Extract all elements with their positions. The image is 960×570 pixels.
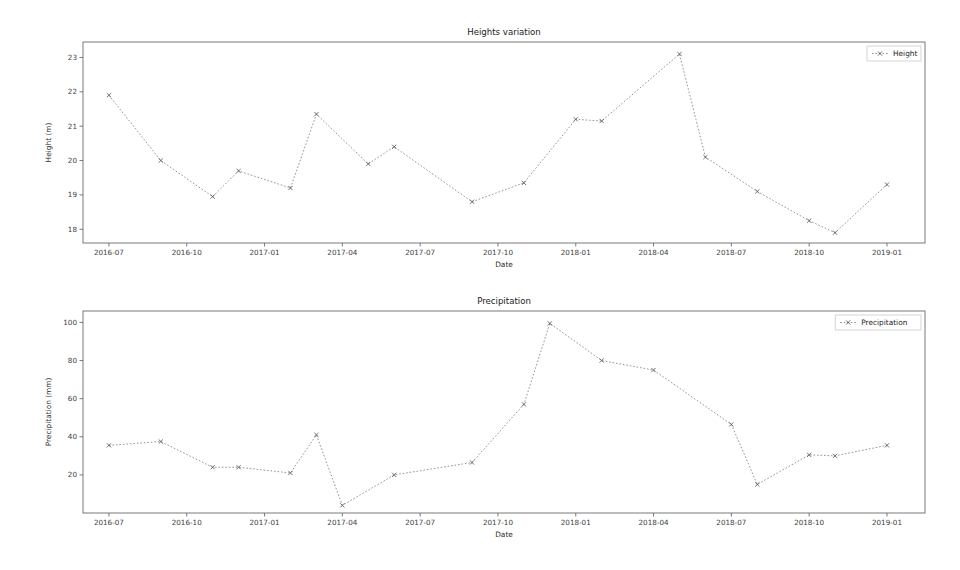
x-tick-label: 2017-04 xyxy=(327,248,357,257)
y-axis-title: Height (m) xyxy=(44,123,53,163)
x-tick-label: 2017-07 xyxy=(405,248,435,257)
x-tick-label: 2019-01 xyxy=(872,248,902,257)
data-point-marker xyxy=(237,169,241,173)
data-point-marker xyxy=(807,219,811,223)
x-tick-label: 2017-01 xyxy=(250,248,280,257)
data-point-marker xyxy=(729,422,733,426)
y-tick-label: 18 xyxy=(68,225,78,234)
data-point-marker xyxy=(107,93,111,97)
data-point-marker xyxy=(885,182,889,186)
data-point-marker xyxy=(470,200,474,204)
x-tick-label: 2016-10 xyxy=(172,518,202,527)
x-axis-title: Date xyxy=(495,530,513,539)
x-tick-label: 2017-04 xyxy=(327,518,357,527)
data-point-marker xyxy=(651,368,655,372)
data-point-marker xyxy=(314,433,318,437)
x-tick-label: 2017-01 xyxy=(250,518,280,527)
legend-label: Precipitation xyxy=(861,318,908,327)
x-tick-label: 2018-04 xyxy=(639,518,669,527)
data-point-marker xyxy=(288,186,292,190)
chart-panel-heights-variation: Heights variation1819202122232016-072016… xyxy=(0,0,960,285)
data-point-marker xyxy=(470,460,474,464)
data-point-marker xyxy=(211,465,215,469)
series-line-height xyxy=(109,54,887,233)
data-point-marker xyxy=(211,195,215,199)
legend-label: Height xyxy=(893,49,918,58)
x-tick-label: 2018-07 xyxy=(716,248,746,257)
data-point-marker xyxy=(159,158,163,162)
data-point-marker xyxy=(833,231,837,235)
data-point-marker xyxy=(392,473,396,477)
chart-panel-precipitation: Precipitation204060801002016-072016-1020… xyxy=(0,285,960,570)
chart-title: Precipitation xyxy=(477,296,531,306)
data-point-marker xyxy=(755,189,759,193)
heights-variation-chart: Heights variation1819202122232016-072016… xyxy=(0,0,960,285)
data-point-marker xyxy=(392,145,396,149)
x-tick-label: 2017-10 xyxy=(483,248,513,257)
x-tick-label: 2016-07 xyxy=(94,518,124,527)
series-markers xyxy=(107,321,889,507)
data-point-marker xyxy=(522,402,526,406)
data-point-marker xyxy=(833,454,837,458)
x-tick-label: 2018-10 xyxy=(794,518,824,527)
chart-legend[interactable]: Precipitation xyxy=(835,315,921,330)
data-point-marker xyxy=(755,482,759,486)
x-tick-label: 2017-10 xyxy=(483,518,513,527)
y-tick-label: 100 xyxy=(63,318,77,327)
data-point-marker xyxy=(522,181,526,185)
data-point-marker xyxy=(366,162,370,166)
y-tick-label: 80 xyxy=(68,356,78,365)
x-tick-label: 2016-10 xyxy=(172,248,202,257)
y-tick-label: 23 xyxy=(68,53,77,62)
y-tick-label: 20 xyxy=(68,156,78,165)
data-point-marker xyxy=(314,112,318,116)
y-tick-label: 19 xyxy=(68,190,78,199)
matplotlib-figure: Heights variation1819202122232016-072016… xyxy=(0,0,960,570)
data-point-marker xyxy=(340,503,344,507)
data-point-marker xyxy=(574,117,578,121)
data-point-marker xyxy=(548,321,552,325)
data-point-marker xyxy=(703,155,707,159)
precipitation-chart: Precipitation204060801002016-072016-1020… xyxy=(0,285,960,570)
x-tick-label: 2017-07 xyxy=(405,518,435,527)
x-tick-label: 2018-04 xyxy=(639,248,669,257)
y-tick-label: 21 xyxy=(68,122,77,131)
x-axis-title: Date xyxy=(495,260,513,269)
x-tick-label: 2018-01 xyxy=(561,518,591,527)
y-tick-label: 60 xyxy=(68,394,78,403)
chart-title: Heights variation xyxy=(467,27,541,37)
x-tick-label: 2016-07 xyxy=(94,248,124,257)
x-tick-label: 2018-01 xyxy=(561,248,591,257)
y-tick-label: 40 xyxy=(68,432,78,441)
series-line-precipitation xyxy=(109,323,887,505)
series-markers xyxy=(107,52,889,235)
plot-frame xyxy=(83,311,925,513)
y-tick-label: 22 xyxy=(68,87,77,96)
y-axis-title: Precipitation (mm) xyxy=(44,378,53,447)
plot-frame xyxy=(83,42,925,243)
x-tick-label: 2019-01 xyxy=(872,518,902,527)
y-tick-label: 20 xyxy=(68,470,78,479)
data-point-marker xyxy=(885,443,889,447)
x-tick-label: 2018-10 xyxy=(794,248,824,257)
x-tick-label: 2018-07 xyxy=(716,518,746,527)
chart-legend[interactable]: Height xyxy=(867,46,921,61)
